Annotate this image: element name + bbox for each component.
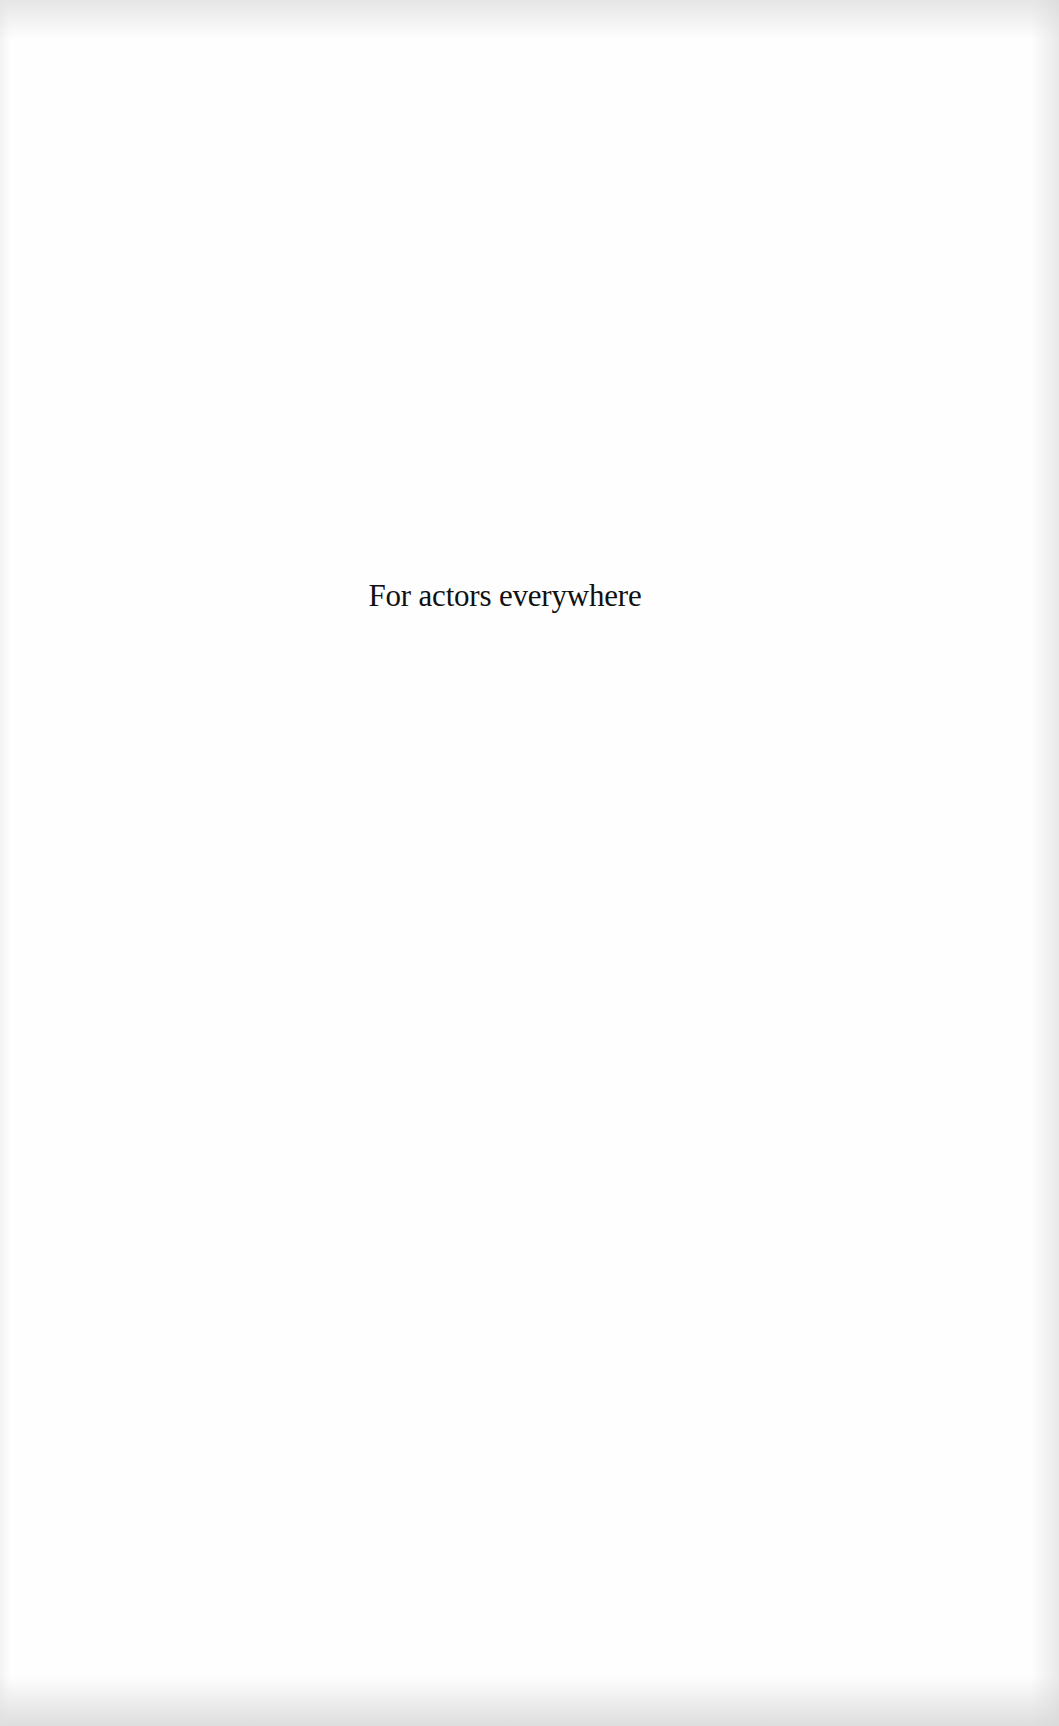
dedication-text: For actors everywhere bbox=[0, 576, 1010, 616]
scan-edge-bottom bbox=[0, 1676, 1059, 1726]
scan-edge-top bbox=[0, 0, 1059, 40]
book-page: For actors everywhere bbox=[0, 0, 1059, 1726]
scan-edge-left bbox=[0, 0, 10, 1726]
scan-edge-right bbox=[1031, 0, 1059, 1726]
